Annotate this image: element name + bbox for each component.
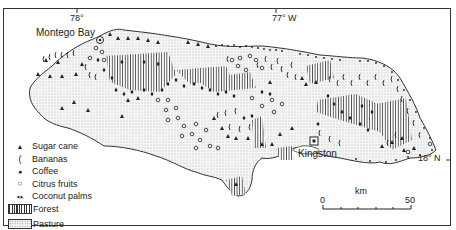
scale-unit: km — [355, 186, 367, 196]
legend-item-sugar-cane: ▲ Sugar cane — [8, 140, 92, 153]
legend-item-citrus: ○ Citrus fruits — [8, 178, 92, 191]
longitude-label-78: 78° — [70, 13, 84, 23]
pasture-stipple-icon — [8, 219, 32, 229]
sugar-cane-icon: ▲ — [8, 143, 32, 150]
legend-item-pasture: Pasture — [8, 218, 92, 230]
scale-end: 50 — [405, 195, 415, 205]
legend: ▲ Sugar cane ( Bananas ● Coffee ○ Citrus… — [8, 140, 92, 230]
place-kingston: Kingston — [298, 148, 337, 159]
legend-item-bananas: ( Bananas — [8, 153, 92, 166]
legend-item-coffee: ● Coffee — [8, 165, 92, 178]
scale-bar — [323, 205, 411, 209]
place-montego-bay: Montego Bay — [36, 27, 95, 38]
legend-item-forest: Forest — [8, 203, 92, 216]
coffee-icon: ● — [8, 168, 32, 175]
latitude-label-18n: 18° N — [418, 153, 441, 163]
longitude-label-77w: 77° W — [272, 13, 297, 23]
forest-hatch-icon — [8, 204, 32, 214]
legend-item-coconut-palms: •.•. Coconut palms — [8, 190, 92, 203]
coconut-palm-icon: •.•. — [8, 192, 32, 201]
citrus-icon: ○ — [8, 179, 32, 188]
scale-start: 0 — [320, 195, 325, 205]
banana-icon: ( — [8, 154, 32, 164]
